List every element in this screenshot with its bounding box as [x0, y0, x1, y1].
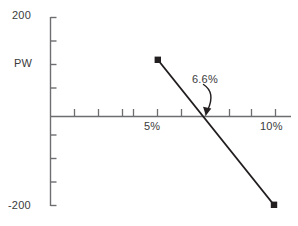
x-axis-tick-label-10pct: 10%: [260, 120, 283, 132]
y-axis-min-label: -200: [8, 199, 31, 211]
annotation-arrow: [204, 85, 211, 111]
y-axis-title: PW: [14, 57, 32, 69]
annotation-arrowhead: [203, 107, 211, 116]
pw-vs-interest-rate-chart: 200 PW -200 5% 10% 6.6%: [0, 0, 298, 226]
x-axis-ticks: [75, 109, 276, 117]
annotation-label-irr: 6.6%: [192, 73, 218, 85]
y-axis-max-label: 200: [12, 9, 31, 21]
chart-plot-area: [0, 0, 298, 226]
data-point-marker-lower: [271, 202, 277, 208]
data-point-marker-upper: [155, 57, 161, 63]
x-axis-tick-label-5pct: 5%: [144, 120, 160, 132]
y-axis-ticks: [51, 18, 57, 206]
